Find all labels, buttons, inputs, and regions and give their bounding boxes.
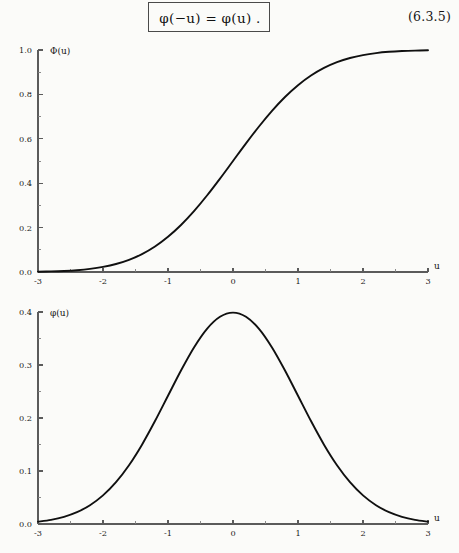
- scanned-page: φ(−u) = φ(u) . (6.3.5) -3-2-101230.00.20…: [0, 0, 459, 553]
- equation-formula: φ(−u) = φ(u) .: [149, 3, 271, 33]
- y-tick-label: 0.2: [19, 413, 32, 423]
- x-tick-label: 3: [425, 276, 430, 286]
- y-tick-label: 0.0: [19, 267, 32, 277]
- data-curve: [38, 313, 428, 522]
- data-curve: [38, 50, 428, 271]
- x-axis-label: u: [434, 513, 440, 523]
- y-tick-label: 0.0: [19, 519, 32, 529]
- x-tick-label: -3: [34, 528, 42, 538]
- x-tick-label: 0: [230, 276, 235, 286]
- y-tick-label: 0.8: [19, 89, 32, 99]
- x-tick-label: 0: [230, 528, 235, 538]
- x-tick-label: -2: [99, 528, 107, 538]
- y-tick-label: 0.1: [19, 466, 32, 476]
- x-tick-label: -2: [99, 276, 107, 286]
- y-tick-label: 0.3: [19, 360, 32, 370]
- y-axis-label: φ(u): [50, 308, 69, 318]
- y-tick-label: 0.2: [19, 223, 32, 233]
- x-tick-label: -1: [164, 276, 172, 286]
- chart-cdf: -3-2-101230.00.20.40.60.81.0Φ(u)u: [0, 40, 459, 296]
- y-tick-label: 0.6: [19, 134, 32, 144]
- y-tick-label: 0.4: [19, 178, 32, 188]
- equation-band: φ(−u) = φ(u) . (6.3.5): [0, 0, 459, 40]
- x-tick-label: 1: [295, 528, 300, 538]
- chart-cdf-canvas: -3-2-101230.00.20.40.60.81.0Φ(u)u: [0, 40, 459, 296]
- x-tick-label: 2: [360, 276, 365, 286]
- y-tick-label: 1.0: [19, 45, 32, 55]
- x-tick-label: -1: [164, 528, 172, 538]
- y-axis-label: Φ(u): [50, 46, 70, 56]
- chart-pdf-canvas: -3-2-101230.00.10.20.30.4φ(u)u: [0, 296, 459, 553]
- boxed-equation: φ(−u) = φ(u) .: [148, 2, 270, 32]
- x-axis-label: u: [434, 261, 440, 271]
- x-tick-label: 1: [295, 276, 300, 286]
- chart-pdf: -3-2-101230.00.10.20.30.4φ(u)u: [0, 296, 459, 553]
- x-tick-label: 3: [425, 528, 430, 538]
- y-tick-label: 0.4: [19, 307, 32, 317]
- x-tick-label: -3: [34, 276, 42, 286]
- equation-number: (6.3.5): [408, 9, 451, 24]
- x-tick-label: 2: [360, 528, 365, 538]
